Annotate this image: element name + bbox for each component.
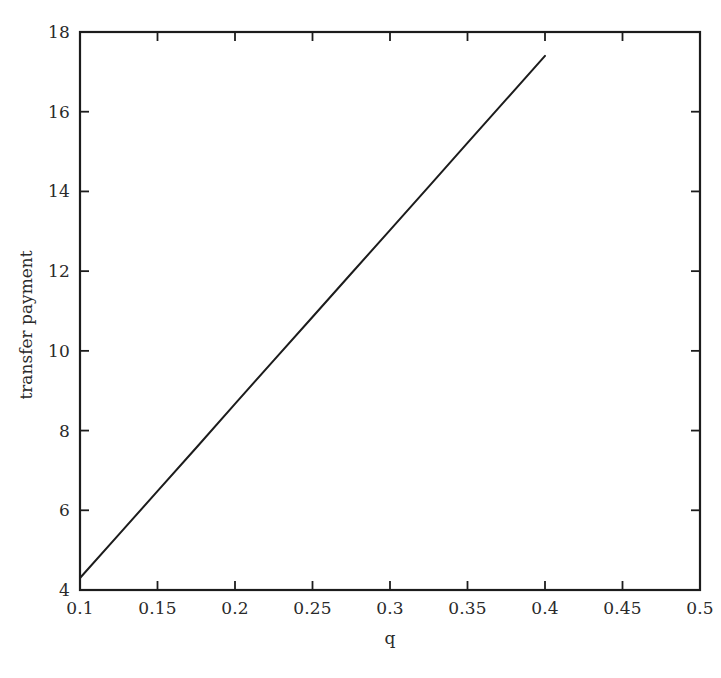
y-tick-label: 6 [0,500,70,520]
y-tick-label: 14 [0,181,70,201]
x-tick-label: 0.25 [293,598,332,618]
chart-plot-svg [0,0,721,678]
x-tick-label: 0.5 [686,598,714,618]
x-tick-label: 0.2 [221,598,249,618]
plot-frame [80,32,700,590]
x-tick-label: 0.15 [138,598,177,618]
x-axis-title: q [385,628,396,648]
y-tick-label: 16 [0,102,70,122]
tick-marks [80,32,700,590]
x-tick-label: 0.35 [448,598,487,618]
y-tick-label: 18 [0,22,70,42]
data-line-transfer-payment [80,56,545,578]
y-tick-label: 4 [0,580,70,600]
figure-container: 0.10.150.20.250.30.350.40.450.5 46810121… [0,0,721,678]
y-tick-label: 8 [0,421,70,441]
x-tick-label: 0.3 [376,598,404,618]
x-tick-label: 0.1 [66,598,94,618]
y-axis-title: transfer payment [16,250,36,399]
x-tick-label: 0.4 [531,598,559,618]
x-tick-label: 0.45 [603,598,642,618]
